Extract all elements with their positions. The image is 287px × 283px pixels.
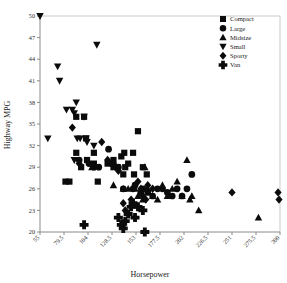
legend-item-large[interactable]: Large bbox=[220, 25, 246, 32]
legend-item-van[interactable]: Van bbox=[219, 61, 241, 70]
data-point bbox=[144, 171, 150, 177]
y-tick-label: 44 bbox=[29, 55, 35, 62]
y-tick-label: 23 bbox=[29, 207, 35, 214]
y-tick-label: 29 bbox=[29, 163, 35, 170]
y-tick-label: 50 bbox=[29, 12, 35, 19]
circle-icon bbox=[220, 25, 226, 31]
y-tick-label: 47 bbox=[29, 34, 35, 41]
data-point bbox=[120, 171, 126, 177]
y-tick-label: 35 bbox=[29, 120, 35, 127]
legend-item-small[interactable]: Small bbox=[219, 43, 245, 50]
scatter-plot-figure: 5047444138353229262320 5579.5104128.5153… bbox=[0, 0, 287, 283]
data-point bbox=[184, 185, 191, 192]
data-point bbox=[135, 128, 141, 134]
legend-item-label: Compact bbox=[230, 15, 254, 22]
legend-item-label: Sporty bbox=[230, 52, 248, 59]
data-point bbox=[130, 150, 136, 156]
legend-item-label: Van bbox=[230, 61, 241, 68]
y-tick-label: 41 bbox=[29, 77, 35, 84]
square-icon bbox=[220, 16, 226, 22]
data-point bbox=[131, 171, 137, 177]
data-point bbox=[91, 150, 97, 156]
legend-item-label: Large bbox=[230, 25, 245, 32]
data-point bbox=[95, 179, 101, 185]
legend-item-label: Small bbox=[230, 43, 246, 50]
data-point bbox=[73, 150, 79, 156]
y-tick-label: 26 bbox=[29, 185, 35, 192]
data-point bbox=[95, 164, 102, 171]
data-point bbox=[121, 150, 127, 156]
y-tick-label: 38 bbox=[29, 99, 35, 106]
legend-item-label: Midsize bbox=[230, 34, 251, 41]
legend-item-sporty[interactable]: Sporty bbox=[220, 52, 249, 60]
x-axis-title: Horsepower bbox=[130, 270, 169, 279]
data-point bbox=[66, 179, 72, 185]
data-point bbox=[125, 161, 131, 167]
data-point bbox=[188, 171, 195, 178]
legend-item-compact[interactable]: Compact bbox=[220, 15, 254, 22]
chart-canvas: 5047444138353229262320 5579.5104128.5153… bbox=[0, 0, 287, 283]
y-axis-title: Highway MPG bbox=[3, 100, 12, 149]
y-tick-label: 32 bbox=[29, 142, 35, 149]
data-point bbox=[105, 146, 112, 153]
